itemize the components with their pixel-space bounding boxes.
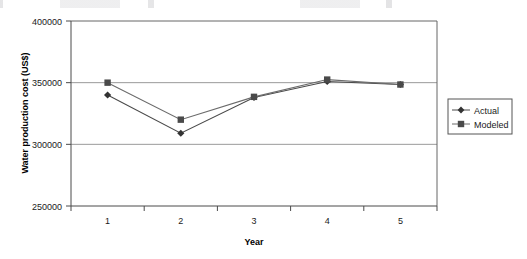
line-chart: 250000 300000 350000 400000 Water produc… [0,0,527,259]
square-marker [178,116,184,122]
x-tick-label-1: 1 [105,216,110,226]
square-icon [458,121,464,127]
square-marker [104,79,110,85]
x-tick-label-2: 2 [178,216,183,226]
square-marker [251,94,257,100]
x-tick-label-4: 4 [325,216,330,226]
legend: Actual Modeled [448,99,512,134]
square-marker [397,81,403,87]
y-axis-title: Water production cost (US$) [20,52,30,173]
plot-area-background [71,21,437,206]
square-marker [324,76,330,82]
x-tick-label-3: 3 [251,216,256,226]
y-tick-label-300000: 300000 [32,140,62,150]
y-tick-label-250000: 250000 [32,202,62,212]
x-tick-label-5: 5 [398,216,403,226]
legend-label-modeled: Modeled [474,120,509,130]
chart-screenshot: 250000 300000 350000 400000 Water produc… [0,0,527,259]
y-tick-label-350000: 350000 [32,78,62,88]
legend-label-actual: Actual [474,106,499,116]
y-tick-label-400000: 400000 [32,17,62,27]
x-axis-ticks [71,206,437,211]
x-axis-title: Year [244,237,264,247]
y-axis-ticks [66,21,71,206]
